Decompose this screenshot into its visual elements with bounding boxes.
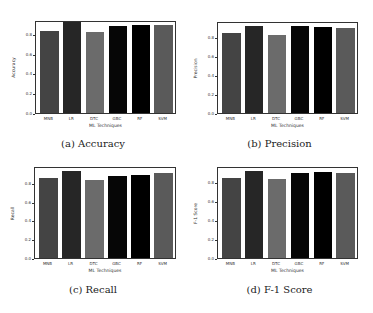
y-tick-mark (33, 94, 35, 95)
x-tick-label: LR (243, 117, 263, 121)
bar-svm (336, 28, 354, 113)
y-tick-label: 0.0 (200, 112, 214, 116)
bar-gbc (291, 173, 309, 258)
bar-dtc (268, 35, 286, 113)
y-tick-mark (33, 74, 35, 75)
x-tick-label: GBC (107, 117, 127, 121)
x-tick-label: SVM (153, 117, 173, 121)
bar-mnb (40, 31, 58, 113)
x-tick-label: SVM (335, 262, 355, 266)
y-tick-label: 0.4 (18, 72, 32, 76)
bar-lr (63, 22, 81, 113)
x-tick-label: DTC (266, 262, 286, 266)
y-tick-label: 0.2 (18, 92, 32, 96)
y-tick-mark (32, 240, 34, 241)
x-tick-label: SVM (153, 262, 173, 266)
y-tick-label: 0.8 (17, 182, 31, 186)
y-tick-mark (215, 202, 217, 203)
y-tick-mark (32, 259, 34, 260)
bar-lr (245, 171, 263, 258)
y-tick-label: 0.2 (17, 238, 31, 242)
y-tick-mark (215, 38, 217, 39)
y-tick-mark (215, 259, 217, 260)
plot-area (35, 21, 176, 114)
x-tick-label: DTC (266, 117, 286, 121)
x-tick-label: RF (312, 262, 332, 266)
bar-rf (132, 25, 150, 113)
x-tick-label: RF (130, 262, 150, 266)
y-axis-label: Recall (10, 193, 15, 233)
y-tick-label: 0.6 (200, 55, 214, 59)
y-tick-label: 0.4 (200, 219, 214, 223)
caption-precision: (b) Precision (186, 138, 373, 149)
bar-rf (131, 175, 149, 258)
bar-dtc (268, 179, 286, 258)
x-axis-label: ML Techniques (217, 268, 358, 273)
y-axis-label: Precision (193, 48, 198, 88)
plot-area (217, 167, 358, 259)
x-tick-label: MNB (220, 117, 240, 121)
y-tick-mark (215, 183, 217, 184)
bar-mnb (222, 33, 240, 113)
x-tick-label: MNB (220, 262, 240, 266)
y-axis-label: Accuracy (11, 48, 16, 88)
y-tick-mark (215, 95, 217, 96)
bar-dtc (86, 32, 104, 113)
x-tick-label: DTC (84, 117, 104, 121)
x-tick-label: SVM (335, 117, 355, 121)
y-tick-mark (33, 55, 35, 56)
y-tick-label: 0.8 (200, 181, 214, 185)
y-tick-mark (215, 221, 217, 222)
x-tick-label: MNB (38, 117, 58, 121)
y-tick-label: 0.4 (200, 74, 214, 78)
y-tick-label: 0.0 (18, 112, 32, 116)
y-tick-label: 0.2 (200, 238, 214, 242)
caption-f1-score: (d) F-1 Score (186, 284, 373, 295)
bar-rf (314, 27, 332, 113)
x-tick-label: RF (130, 117, 150, 121)
y-tick-mark (32, 184, 34, 185)
bar-svm (154, 25, 172, 113)
plot-area (34, 167, 176, 259)
bar-mnb (39, 178, 57, 258)
bar-lr (245, 26, 263, 113)
plot-area (217, 22, 358, 114)
y-tick-label: 0.8 (18, 33, 32, 37)
y-tick-label: 0.4 (17, 219, 31, 223)
y-tick-mark (215, 240, 217, 241)
bar-gbc (108, 176, 126, 258)
x-tick-label: LR (243, 262, 263, 266)
x-tick-label: LR (61, 262, 81, 266)
x-tick-label: LR (61, 117, 81, 121)
bar-gbc (109, 26, 127, 113)
x-tick-label: GBC (107, 262, 127, 266)
bar-dtc (85, 180, 103, 258)
y-tick-label: 0.0 (17, 257, 31, 261)
x-axis-label: ML Techniques (35, 123, 176, 128)
x-tick-label: DTC (84, 262, 104, 266)
y-tick-label: 0.0 (200, 257, 214, 261)
bar-lr (62, 171, 80, 258)
y-tick-mark (32, 203, 34, 204)
y-tick-mark (33, 114, 35, 115)
y-tick-mark (32, 221, 34, 222)
bar-mnb (222, 178, 240, 258)
caption-accuracy: (a) Accuracy (0, 138, 186, 149)
bar-rf (314, 172, 332, 258)
x-tick-label: MNB (38, 262, 58, 266)
x-tick-label: GBC (289, 262, 309, 266)
x-tick-label: GBC (289, 117, 309, 121)
y-tick-label: 0.2 (200, 93, 214, 97)
caption-recall: (c) Recall (0, 284, 186, 295)
y-tick-label: 0.8 (200, 36, 214, 40)
y-axis-label: F-1 Score (193, 193, 198, 233)
bar-svm (154, 173, 172, 258)
bar-svm (336, 173, 354, 258)
y-tick-label: 0.6 (18, 53, 32, 57)
y-tick-mark (33, 35, 35, 36)
y-tick-mark (215, 114, 217, 115)
x-axis-label: ML Techniques (34, 268, 176, 273)
x-tick-label: RF (312, 117, 332, 121)
x-axis-label: ML Techniques (217, 123, 358, 128)
y-tick-mark (215, 57, 217, 58)
